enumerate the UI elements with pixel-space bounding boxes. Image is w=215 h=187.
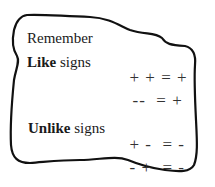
equals: =: [156, 91, 167, 110]
unlike-signs-rest: signs: [71, 120, 106, 136]
remember-heading: Remember: [27, 31, 93, 46]
result-sign: +: [172, 91, 183, 110]
equation-minus-plus: - + = -: [119, 142, 185, 176]
sign: -: [139, 91, 146, 110]
like-signs-label: Like signs: [27, 55, 91, 70]
equation-minus-minus: -- = +: [122, 75, 183, 109]
unlike-signs-label: Unlike signs: [28, 121, 105, 136]
sign: -: [130, 158, 137, 177]
like-signs-rest: signs: [56, 54, 91, 70]
unlike-bold: Unlike: [28, 120, 71, 136]
equals: =: [163, 158, 174, 177]
like-bold: Like: [27, 54, 56, 70]
sign: +: [141, 158, 152, 177]
result-sign: -: [178, 158, 185, 177]
